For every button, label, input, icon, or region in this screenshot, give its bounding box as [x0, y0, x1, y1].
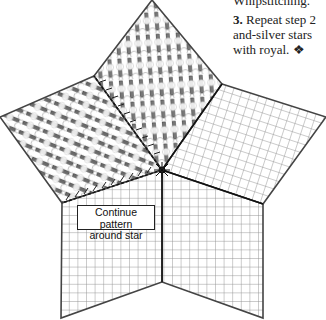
step-number: 3. [233, 12, 243, 27]
step-text: Repeat step 2 [243, 12, 316, 27]
center-knot-icon [154, 162, 170, 178]
callout-line-2: around star [78, 230, 154, 242]
instruction-line-0: Whipstitching. [233, 0, 310, 8]
instruction-step-3: 3. Repeat step 2 [233, 12, 316, 27]
instruction-line-2: and-silver stars [233, 27, 312, 42]
instruction-line-3: with royal. ❖ [233, 42, 305, 57]
callout-line-1: Continue pattern [78, 207, 154, 230]
callout-label: Continue pattern around star [77, 205, 155, 230]
